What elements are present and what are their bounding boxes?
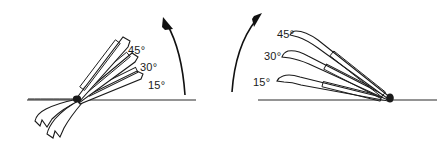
angle-label-45-left: 45° (128, 45, 145, 56)
figure-root: 45° 30° 15° 45° 30° 15° (0, 0, 447, 146)
rotation-arrow-left (162, 17, 185, 95)
rotation-arrow-head-right (252, 13, 262, 27)
rotation-arrow-arc-left (167, 24, 185, 95)
pivot-point-right (386, 93, 394, 102)
angle-label-15-right: 15° (253, 77, 270, 88)
angle-label-45-right: 45° (277, 29, 294, 40)
diagram-canvas (0, 0, 447, 146)
angle-label-15-left: 15° (148, 80, 165, 91)
right-view-panel (232, 13, 437, 103)
angle-label-30-right: 30° (264, 51, 281, 62)
blade-15-right (277, 75, 389, 101)
rotation-arrow-head-left (162, 17, 173, 30)
lower-blade-group-left (28, 99, 82, 138)
pivot-point-left (73, 96, 81, 103)
left-view-panel (27, 17, 196, 138)
angle-label-30-left: 30° (140, 62, 157, 73)
